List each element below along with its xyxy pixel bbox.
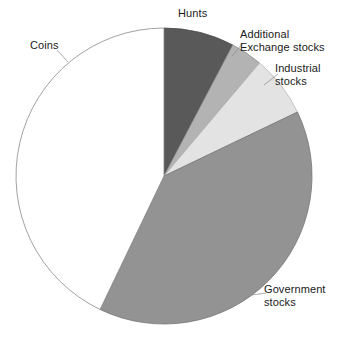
pie-label-government-stocks: Government stocks: [264, 283, 326, 309]
leader-line-coins: [57, 50, 68, 62]
pie-label-hunts: Hunts: [178, 7, 207, 20]
pie-label-coins: Coins: [30, 39, 59, 52]
pie-slice-group: [16, 28, 312, 324]
pie-label-industrial-stocks: Industrial stocks: [275, 62, 321, 88]
pie-chart-figure: Hunts Additional Exchange stocks Industr…: [0, 0, 348, 343]
pie-label-additional-exchange-stocks: Additional Exchange stocks: [240, 28, 325, 54]
